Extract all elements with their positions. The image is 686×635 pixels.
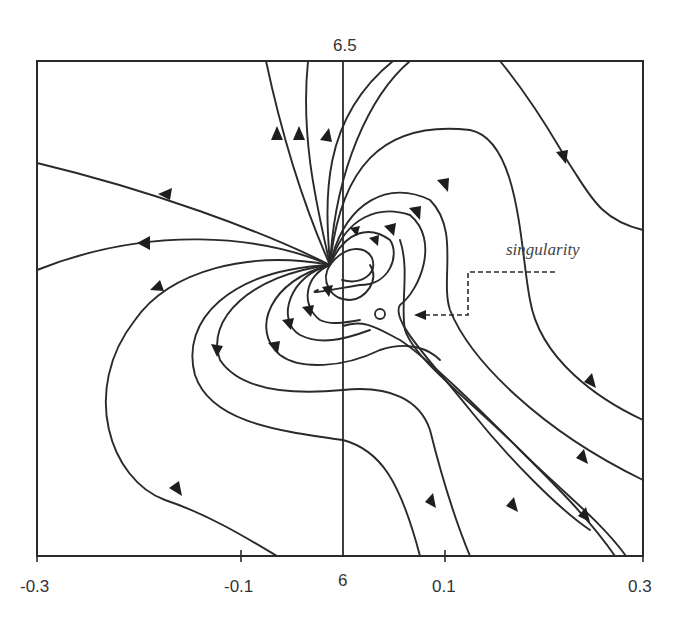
top-label: 6.5 xyxy=(333,36,357,55)
x-tick-label-neg-0-3: -0.3 xyxy=(20,577,49,596)
streamlines xyxy=(37,61,643,556)
singularity-marker xyxy=(375,309,385,319)
x-tick-label-0-3: 0.3 xyxy=(628,577,652,596)
x-tick-label-0-1: 0.1 xyxy=(432,577,456,596)
center-bottom-label: 6 xyxy=(338,571,347,590)
singularity-annotation: singularity xyxy=(506,240,580,259)
streamline-figure: 6.5 -0.3 -0.1 6 0.1 0.3 xyxy=(0,0,686,635)
x-tick-label-neg-0-1: -0.1 xyxy=(224,577,253,596)
